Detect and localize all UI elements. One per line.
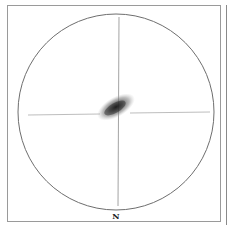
polar-plot [0, 0, 229, 230]
crosshair-horizontal-left [28, 114, 100, 115]
density-cluster [93, 88, 139, 126]
crosshair-horizontal-right [130, 112, 210, 113]
north-label: N [106, 211, 126, 221]
